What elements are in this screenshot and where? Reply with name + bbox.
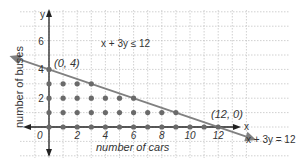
y-axis-symbol: y [40,9,45,20]
tick-labels: 24681012246 [38,36,224,141]
solution-point [75,81,80,86]
solution-point [173,124,178,129]
solution-point [89,81,94,86]
solution-point [159,110,164,115]
origin-label: 0 [37,130,43,141]
y-axis-title: number of buses [13,46,25,128]
y-axis-up-arrow-icon [46,9,52,17]
x-tick-label: 6 [131,130,137,141]
solution-point [131,110,136,115]
x-tick-label: 12 [213,130,225,141]
solution-point [173,110,178,115]
solution-point [46,110,51,115]
solution-point [89,96,94,101]
solution-point [216,124,221,129]
inequality-label: x + 3y ≤ 12 [101,38,151,49]
inequality-graph: 24681012246 y x number of cars number of… [0,0,305,160]
solution-point [46,96,51,101]
y-tick-label: 6 [38,36,44,47]
solution-point [145,124,150,129]
solution-point [61,81,66,86]
solution-point [187,124,192,129]
y-tick-label: 2 [38,93,44,104]
solution-point [89,124,94,129]
x-axis-right-arrow-icon [233,124,241,130]
solution-point [89,110,94,115]
solution-point [145,110,150,115]
solution-point [117,96,122,101]
solution-point [202,124,207,129]
solution-point [103,110,108,115]
solution-point [61,96,66,101]
solution-point [75,96,80,101]
solution-point [46,67,51,72]
solution-point [46,124,51,129]
solution-point [46,81,51,86]
point-label-0-4: (0, 4) [54,57,80,69]
solution-point [103,124,108,129]
x-tick-label: 10 [184,130,196,141]
y-tick-label: 4 [38,64,44,75]
x-tick-label: 2 [73,130,80,141]
solution-point [131,96,136,101]
solution-point [117,124,122,129]
solution-point [61,110,66,115]
x-tick-label: 8 [159,130,165,141]
solution-point [61,124,66,129]
x-tick-label: 4 [103,130,109,141]
x-axis-symbol: x [244,121,249,132]
solution-point [75,110,80,115]
solution-point [117,110,122,115]
point-label-12-0: (12, 0) [211,108,243,120]
solution-point [103,96,108,101]
solution-point [159,124,164,129]
x-axis-title: number of cars [96,141,170,153]
equation-label: x + 3y = 12 [246,134,296,145]
solution-point [131,124,136,129]
solution-point [75,124,80,129]
